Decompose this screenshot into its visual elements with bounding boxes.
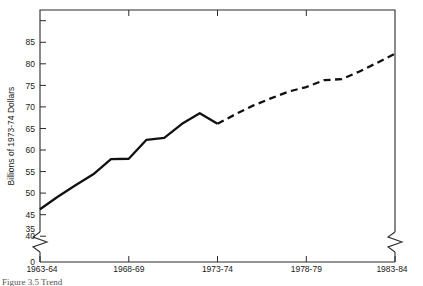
y-axis-tick-labels: 85 80 75 70 65 60 55 50 45 40 35 0 — [26, 37, 36, 267]
figure-caption: Figure 3.5 Trend — [2, 277, 63, 286]
figure-container: 85 80 75 70 65 60 55 50 45 40 35 0 Billi… — [0, 0, 423, 286]
y-tick-label-80: 80 — [26, 59, 36, 69]
frame-top-left-right — [40, 10, 395, 232]
x-tick-label-1963-64: 1963-64 — [26, 264, 57, 274]
x-axis-tick-labels: 1963-64 1968-69 1973-74 1978-79 1983-84 — [26, 264, 407, 274]
axis-break-marks — [33, 232, 402, 252]
x-tick-label-1983-84: 1983-84 — [376, 264, 407, 274]
y-tick-label-75: 75 — [26, 81, 36, 91]
y-tick-label-45: 45 — [26, 210, 36, 220]
series-line-projected — [218, 54, 396, 124]
y-tick-label-50: 50 — [26, 188, 36, 198]
x-axis-ticks — [40, 10, 395, 262]
y-tick-label-60: 60 — [26, 145, 36, 155]
y-tick-label-65: 65 — [26, 124, 36, 134]
y-axis-title: Billions of 1973-74 Dollars — [6, 87, 16, 186]
x-tick-label-1968-69: 1968-69 — [113, 264, 144, 274]
y-tick-label-35: 35 — [26, 224, 36, 234]
y-tick-label-55: 55 — [26, 167, 36, 177]
chart-frame — [40, 10, 395, 262]
y-axis-ticks — [40, 21, 46, 237]
right-axis-break-icon — [388, 232, 402, 252]
line-chart: 85 80 75 70 65 60 55 50 45 40 35 0 Billi… — [0, 0, 423, 286]
x-tick-label-1978-79: 1978-79 — [291, 264, 322, 274]
y-tick-label-85: 85 — [26, 37, 36, 47]
series-line-actual — [40, 113, 218, 209]
x-tick-label-1973-74: 1973-74 — [202, 264, 233, 274]
y-tick-label-70: 70 — [26, 102, 36, 112]
left-axis-break-icon — [33, 232, 47, 252]
